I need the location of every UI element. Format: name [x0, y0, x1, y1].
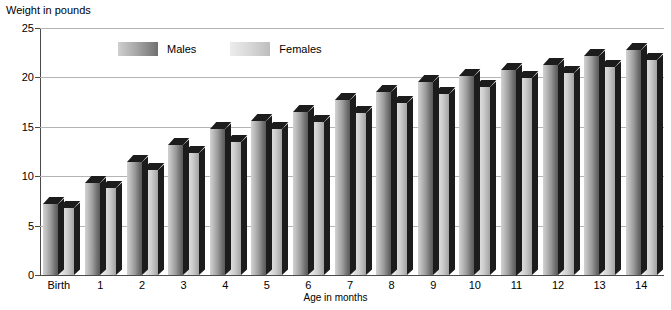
bar-group: [127, 28, 158, 275]
bar-face: [501, 70, 516, 276]
bar-group: [335, 28, 366, 275]
male-swatch-icon: [118, 42, 158, 56]
x-tick-label-14: 14: [635, 279, 647, 291]
bar-side: [158, 165, 164, 275]
bar-face: [251, 121, 266, 275]
x-tick-label-5: 5: [264, 279, 270, 291]
bar-males-2: [127, 162, 142, 275]
bar-face: [43, 204, 58, 275]
bar-side: [142, 157, 148, 275]
legend-label-females: Females: [279, 43, 321, 55]
bar-face: [293, 112, 308, 275]
bar-side: [58, 198, 64, 275]
bar-group: [459, 28, 490, 275]
bar-side: [100, 178, 106, 275]
x-tick-label-9: 9: [430, 279, 436, 291]
bar-males-14: [626, 50, 641, 275]
bar-group: [251, 28, 282, 275]
bar-side: [490, 82, 496, 275]
y-axis-tick-labels: 0510152025: [0, 28, 34, 275]
bar-side: [474, 71, 480, 275]
y-tick-mark-0: [35, 275, 40, 276]
bar-males-4: [210, 129, 225, 275]
bar-face: [168, 145, 183, 275]
y-tick-mark-15: [35, 127, 40, 128]
y-tick-mark-5: [35, 226, 40, 227]
bar-face: [543, 65, 558, 275]
gridline-0: [40, 275, 664, 276]
bar-group: [293, 28, 324, 275]
bar-side: [657, 54, 663, 275]
bar-males-10: [459, 76, 474, 275]
bar-side: [599, 50, 605, 275]
bar-group: [501, 28, 532, 275]
bar-face: [210, 129, 225, 275]
legend-label-males: Males: [167, 43, 196, 55]
bars-layer: [40, 28, 664, 275]
bar-side: [391, 87, 397, 275]
bar-face: [584, 56, 599, 275]
bar-chart: Weight in pounds 0510152025 Males Female…: [0, 0, 671, 310]
bar-side: [641, 44, 647, 275]
bar-side: [574, 68, 580, 275]
bar-males-1: [85, 183, 100, 275]
x-tick-label-7: 7: [347, 279, 353, 291]
bar-face: [418, 82, 433, 275]
bar-males-5: [251, 121, 266, 275]
bar-side: [183, 139, 189, 275]
x-tick-label-6: 6: [305, 279, 311, 291]
bar-side: [116, 183, 122, 275]
bar-face: [626, 50, 641, 275]
bar-side: [225, 123, 231, 275]
bar-group: [418, 28, 449, 275]
x-tick-label-4: 4: [222, 279, 228, 291]
bar-side: [449, 89, 455, 275]
chart-legend: Males Females: [118, 42, 322, 56]
female-swatch-icon: [230, 42, 270, 56]
bar-group: [376, 28, 407, 275]
y-tick-label-10: 10: [8, 170, 34, 182]
bar-males-8: [376, 92, 391, 275]
x-tick-label-13: 13: [593, 279, 605, 291]
bar-males-9: [418, 82, 433, 275]
x-tick-label-12: 12: [552, 279, 564, 291]
bar-group: [168, 28, 199, 275]
bar-group: [543, 28, 574, 275]
bar-side: [615, 61, 621, 275]
y-tick-mark-20: [35, 77, 40, 78]
bar-side: [532, 73, 538, 275]
bar-males-3: [168, 145, 183, 275]
y-tick-label-25: 25: [8, 22, 34, 34]
bar-side: [199, 148, 205, 275]
bar-side: [74, 202, 80, 275]
x-tick-label-2: 2: [139, 279, 145, 291]
bar-face: [335, 100, 350, 275]
bar-face: [85, 183, 100, 275]
bar-group: [43, 28, 74, 275]
x-axis-title: Age in months: [0, 292, 671, 303]
bar-males-7: [335, 100, 350, 275]
legend-item-males: Males: [118, 42, 196, 56]
y-tick-label-0: 0: [8, 269, 34, 281]
bar-face: [376, 92, 391, 275]
bar-males-12: [543, 65, 558, 275]
y-tick-mark-10: [35, 176, 40, 177]
bar-males-11: [501, 70, 516, 276]
bar-group: [584, 28, 615, 275]
y-tick-label-20: 20: [8, 71, 34, 83]
bar-group: [210, 28, 241, 275]
bar-males-13: [584, 56, 599, 275]
x-tick-label-3: 3: [181, 279, 187, 291]
bar-side: [350, 95, 356, 275]
bar-face: [459, 76, 474, 275]
bar-side: [516, 64, 522, 275]
bar-side: [241, 136, 247, 275]
bar-side: [558, 59, 564, 275]
bar-group: [626, 28, 657, 275]
y-tick-mark-25: [35, 28, 40, 29]
bar-side: [308, 107, 314, 275]
bar-side: [433, 77, 439, 275]
bar-side: [282, 123, 288, 275]
y-axis-title: Weight in pounds: [6, 4, 91, 16]
bar-group: [85, 28, 116, 275]
